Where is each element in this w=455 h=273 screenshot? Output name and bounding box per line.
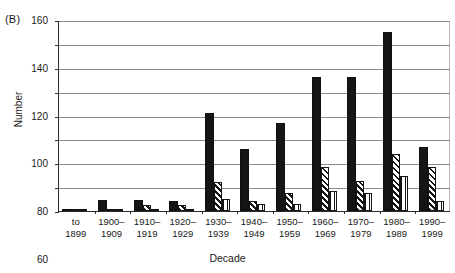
bar-group xyxy=(202,21,238,211)
bar-group xyxy=(308,21,344,211)
bar-series-2 xyxy=(249,201,257,211)
bar-series-2 xyxy=(178,205,186,211)
bar-series-3 xyxy=(293,204,301,211)
y-axis-title: Number xyxy=(13,70,24,150)
bar-series-3 xyxy=(364,193,372,211)
bar-series-1 xyxy=(312,77,321,211)
y-tick-label-140: 140 xyxy=(31,64,48,74)
bar-series-3 xyxy=(329,191,337,211)
bar-series-1 xyxy=(205,113,214,211)
bar-series-1 xyxy=(98,200,107,211)
x-tick-mark xyxy=(273,211,274,214)
bar-group xyxy=(59,21,95,211)
bar-series-1 xyxy=(240,149,249,211)
x-tick-mark xyxy=(95,211,96,214)
bar-series-1 xyxy=(169,201,178,211)
bar-series-3 xyxy=(400,176,408,211)
x-tick-mark xyxy=(380,211,381,214)
x-tick-mark xyxy=(237,211,238,214)
y-tick-label-120: 120 xyxy=(31,112,48,122)
bar-series-1 xyxy=(62,209,71,211)
bar-series-2 xyxy=(214,182,222,211)
bar-series-3 xyxy=(436,201,444,211)
x-tick-mark xyxy=(415,211,416,214)
bar-series-2 xyxy=(71,209,79,211)
bar-series-3 xyxy=(257,204,265,211)
bar-series-1 xyxy=(347,77,356,211)
bar-group xyxy=(95,21,131,211)
bar-series-2 xyxy=(285,193,293,211)
bar-series-3 xyxy=(151,209,159,211)
bar-series-3 xyxy=(115,209,123,211)
bar-series-1 xyxy=(134,200,143,211)
bar-group xyxy=(380,21,416,211)
bar-series-2 xyxy=(392,154,400,211)
x-tick-mark xyxy=(308,211,309,214)
bar-group xyxy=(130,21,166,211)
bar-series-3 xyxy=(79,209,87,211)
bar-series-1 xyxy=(276,123,285,211)
y-tick-label-160: 160 xyxy=(31,16,48,26)
plot-area: 020406080100120140160 xyxy=(58,21,450,212)
x-tick-mark xyxy=(130,211,131,214)
bar-group xyxy=(344,21,380,211)
y-tick-label-100: 100 xyxy=(31,159,48,169)
bar-series-2 xyxy=(428,167,436,211)
x-tick-mark xyxy=(166,211,167,214)
bar-group xyxy=(415,21,451,211)
x-tick-mark xyxy=(344,211,345,214)
bar-series-2 xyxy=(356,181,364,211)
y-tick-mark-0: 0 xyxy=(55,212,59,213)
x-tick-mark xyxy=(202,211,203,214)
bar-series-3 xyxy=(222,199,230,211)
bar-series-2 xyxy=(143,205,151,211)
bar-series-1 xyxy=(419,147,428,211)
bar-series-3 xyxy=(186,209,194,211)
bar-series-2 xyxy=(107,209,115,211)
x-tick-label: 1990– 1999 xyxy=(411,216,453,239)
bar-series-2 xyxy=(321,167,329,211)
x-axis-title: Decade xyxy=(0,252,455,264)
panel-label: (B) xyxy=(5,13,20,25)
bar-group xyxy=(237,21,273,211)
bar-group xyxy=(273,21,309,211)
bar-group xyxy=(166,21,202,211)
figure-panel-b: (B) Number 020406080100120140160 to 1899… xyxy=(0,0,455,273)
bar-series-1 xyxy=(383,32,392,211)
y-tick-label-80: 80 xyxy=(37,207,48,217)
